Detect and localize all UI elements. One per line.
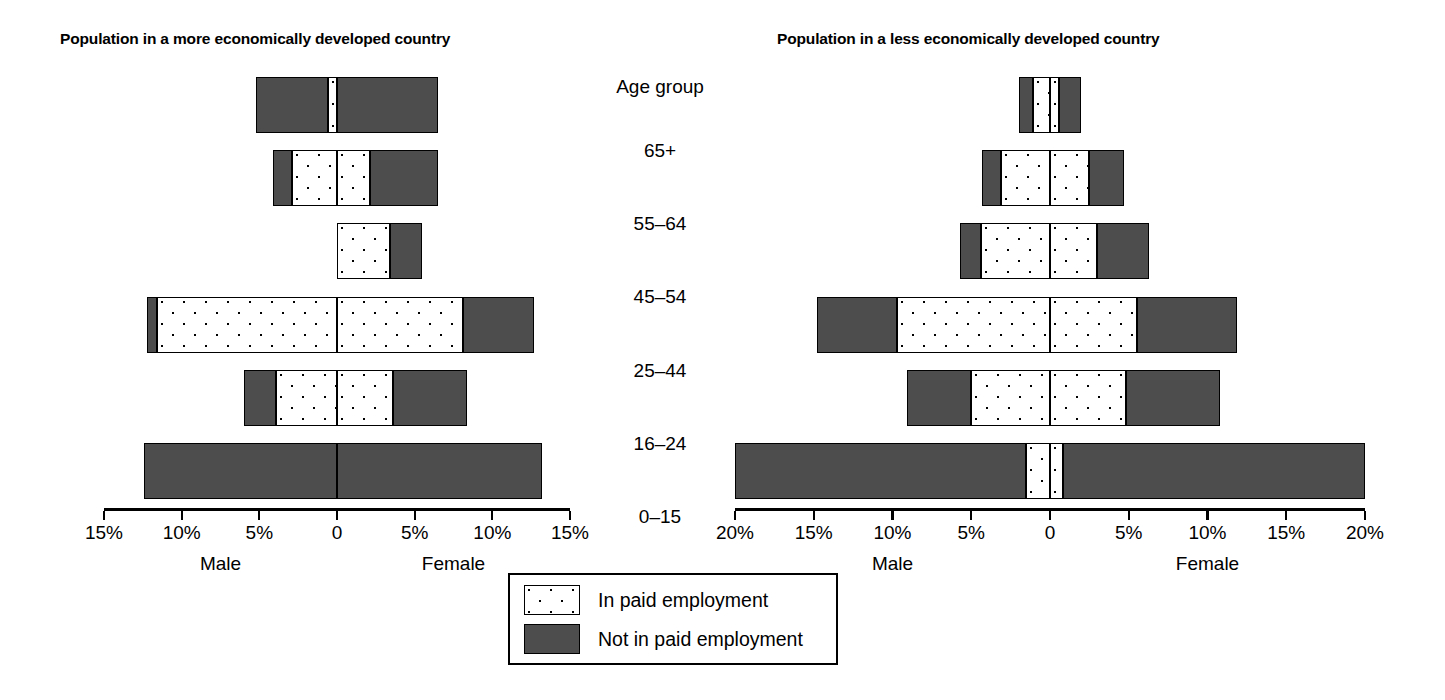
legend: In paid employment Not in paid employmen… <box>508 573 838 665</box>
bar-row <box>104 288 570 361</box>
bar-segment-female-in-paid-employment <box>337 370 393 426</box>
axis-tick-label: 20% <box>1346 522 1384 544</box>
age-group-header: Age group <box>570 76 750 98</box>
bar-row <box>104 141 570 214</box>
axis-tick <box>336 511 338 520</box>
bar-segment-female-not-in-paid-employment <box>337 77 438 133</box>
bar-segment-female-not-in-paid-employment <box>1059 77 1081 133</box>
axis-tick <box>1364 511 1366 520</box>
bar-segment-male-not-in-paid-employment <box>244 370 277 426</box>
bar-segment-female-in-paid-employment <box>1050 443 1063 499</box>
axis-tick <box>181 511 183 520</box>
axis-tick-label: 5% <box>1115 522 1142 544</box>
plot-area-more-developed <box>104 68 570 508</box>
bar-segment-male-in-paid-employment <box>276 370 337 426</box>
bar-segment-female-not-in-paid-employment <box>1137 297 1238 353</box>
axis-tick <box>891 511 893 520</box>
bar-segment-male-in-paid-employment <box>1001 150 1050 206</box>
legend-label-not-in-paid-employment: Not in paid employment <box>598 628 803 651</box>
bar-rows-less-developed <box>735 68 1365 508</box>
axis-tick-label: 10% <box>873 522 911 544</box>
legend-item-in-paid-employment: In paid employment <box>524 584 768 616</box>
legend-swatch-dark-icon <box>524 624 580 654</box>
bar-segment-male-in-paid-employment <box>328 77 337 133</box>
axis-tick-label: 0 <box>1045 522 1056 544</box>
bar-segment-male-in-paid-employment <box>157 297 337 353</box>
bar-segment-male-in-paid-employment <box>1033 77 1050 133</box>
bar-row <box>104 435 570 508</box>
bar-segment-female-not-in-paid-employment <box>393 370 468 426</box>
age-group-label: 45–54 <box>570 286 750 308</box>
bar-segment-female-in-paid-employment <box>1050 77 1059 133</box>
axis-tick-label: 10% <box>163 522 201 544</box>
chart-panel-more-developed: Population in a more economically develo… <box>0 0 660 600</box>
bar-row <box>735 68 1365 141</box>
age-group-label: 65+ <box>570 140 750 162</box>
age-group-label: 16–24 <box>570 433 750 455</box>
axis-tick <box>414 511 416 520</box>
axis-label-female: Female <box>422 553 485 575</box>
bar-row <box>735 215 1365 288</box>
axis-tick-label: 10% <box>1188 522 1226 544</box>
bar-segment-male-in-paid-employment <box>981 223 1050 279</box>
chart-panel-less-developed: Population in a less economically develo… <box>660 0 1445 600</box>
bar-segment-female-not-in-paid-employment <box>1126 370 1221 426</box>
axis-tick-label: 5% <box>401 522 428 544</box>
bar-segment-male-not-in-paid-employment <box>1019 77 1033 133</box>
bar-row <box>104 68 570 141</box>
bar-segment-male-in-paid-employment <box>897 297 1050 353</box>
bar-segment-female-in-paid-employment <box>337 297 463 353</box>
axis-tick <box>1285 511 1287 520</box>
axis-tick-label: 5% <box>958 522 985 544</box>
bar-row <box>735 141 1365 214</box>
axis-tick-label: 5% <box>246 522 273 544</box>
axis-label-female: Female <box>1176 553 1239 575</box>
bar-row <box>104 361 570 434</box>
bar-segment-female-not-in-paid-employment <box>1089 150 1124 206</box>
age-group-label: 25–44 <box>570 360 750 382</box>
bar-rows-more-developed <box>104 68 570 508</box>
bar-segment-female-in-paid-employment <box>337 223 390 279</box>
bar-segment-male-not-in-paid-employment <box>256 77 327 133</box>
bar-row <box>735 288 1365 361</box>
bar-segment-male-in-paid-employment <box>971 370 1050 426</box>
age-group-column: Age group 65+55–6445–5425–4416–240–15 <box>570 68 750 518</box>
axis-tick <box>103 511 105 520</box>
legend-item-not-in-paid-employment: Not in paid employment <box>524 623 803 655</box>
axis-tick-label: 10% <box>473 522 511 544</box>
bar-segment-male-not-in-paid-employment <box>907 370 972 426</box>
chart-title-more-developed: Population in a more economically develo… <box>60 30 450 48</box>
axis-tick <box>491 511 493 520</box>
bar-row <box>104 215 570 288</box>
bar-segment-female-not-in-paid-employment <box>1063 443 1365 499</box>
bar-segment-female-in-paid-employment <box>1050 297 1137 353</box>
axis-tick <box>258 511 260 520</box>
bar-segment-male-not-in-paid-employment <box>273 150 292 206</box>
age-group-label: 0–15 <box>570 506 750 528</box>
chart-title-less-developed: Population in a less economically develo… <box>777 30 1160 48</box>
bar-segment-male-not-in-paid-employment <box>144 443 337 499</box>
bar-segment-female-not-in-paid-employment <box>463 297 534 353</box>
legend-swatch-dots-icon <box>524 585 580 615</box>
bar-segment-male-not-in-paid-employment <box>982 150 1001 206</box>
bar-segment-female-in-paid-employment <box>1050 150 1089 206</box>
bar-segment-female-not-in-paid-employment <box>1097 223 1149 279</box>
axis-tick-label: 0 <box>332 522 343 544</box>
age-group-label: 55–64 <box>570 213 750 235</box>
bar-segment-female-not-in-paid-employment <box>390 223 423 279</box>
bar-segment-male-in-paid-employment <box>1026 443 1050 499</box>
axis-tick <box>1206 511 1208 520</box>
legend-label-in-paid-employment: In paid employment <box>598 589 768 612</box>
axis-label-male: Male <box>872 553 913 575</box>
bar-segment-female-in-paid-employment <box>337 150 370 206</box>
axis-tick-label: 15% <box>795 522 833 544</box>
bar-row <box>735 435 1365 508</box>
bar-segment-male-not-in-paid-employment <box>960 223 980 279</box>
bar-segment-male-not-in-paid-employment <box>817 297 897 353</box>
axis-tick <box>1128 511 1130 520</box>
bar-segment-male-not-in-paid-employment <box>735 443 1026 499</box>
bar-row <box>735 361 1365 434</box>
axis-label-male: Male <box>200 553 241 575</box>
bar-segment-female-not-in-paid-employment <box>370 150 438 206</box>
plot-area-less-developed <box>735 68 1365 508</box>
